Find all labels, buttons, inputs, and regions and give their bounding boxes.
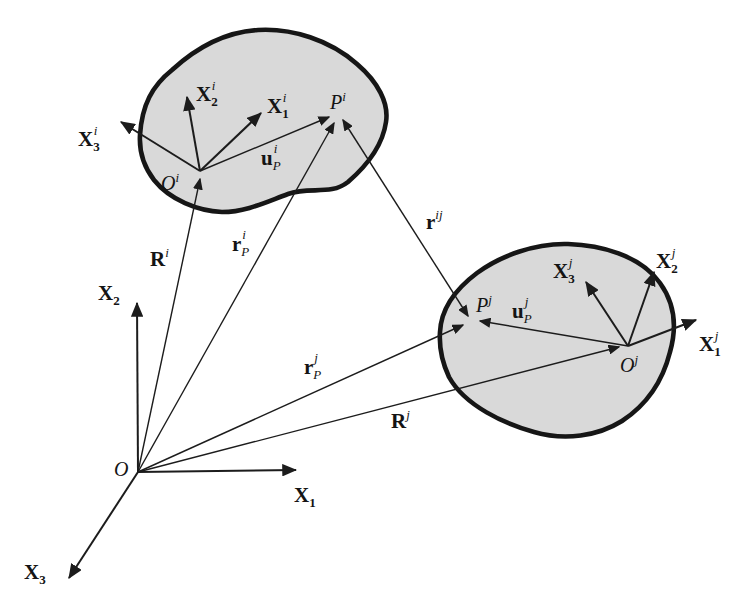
label-body-i-axis-X1: X1i	[267, 90, 289, 121]
vector-R-i	[138, 179, 200, 472]
label-vector-R-j: Rj	[391, 407, 410, 433]
axis-X2	[137, 303, 138, 472]
label-axis-X1: X1	[294, 483, 316, 510]
label-body-j-axis-X1: X1j	[699, 328, 721, 359]
label-origin-O: O	[114, 458, 128, 480]
label-body-j-axis-X3: X3j	[553, 255, 575, 286]
label-vector-r-ij: rij	[426, 207, 443, 234]
diagram-canvas: O X1 X2 X3 Ri rPi rPj Rj rij Oi Pi uPi X…	[0, 0, 742, 606]
label-axis-X3: X3	[24, 560, 46, 587]
label-vector-R-i: Ri	[150, 245, 169, 271]
axis-X3	[69, 472, 138, 578]
label-body-j-axis-X2: X2j	[656, 245, 678, 276]
label-body-i-axis-X2: X2i	[196, 78, 218, 109]
axis-X1	[138, 470, 296, 472]
label-body-i-axis-X3: X3i	[78, 123, 100, 154]
label-vector-r-P-j: rPj	[304, 350, 321, 382]
figure: O X1 X2 X3 Ri rPi rPj Rj rij Oi Pi uPi X…	[0, 0, 742, 606]
vector-r-P-j	[138, 325, 463, 472]
vector-r-ij	[343, 120, 468, 316]
label-vector-r-P-i: rPi	[232, 227, 249, 259]
label-axis-X2: X2	[98, 281, 120, 308]
